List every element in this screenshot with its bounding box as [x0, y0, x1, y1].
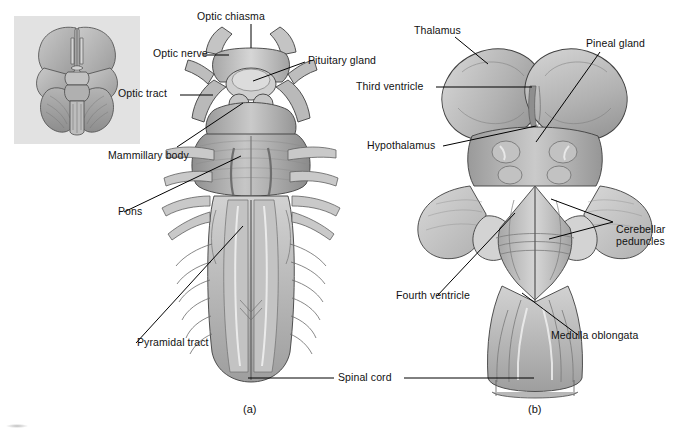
label-cerebellar-peduncles: Cerebellar peduncles	[616, 224, 678, 247]
label-pineal-gland: Pineal gland	[586, 38, 645, 50]
label-mammillary-body: Mammillary body	[108, 150, 189, 162]
label-optic-tract: Optic tract	[118, 88, 167, 100]
brain-stem-figure: Optic chiasma Optic nerve Optic tract Pi…	[0, 0, 678, 433]
label-fourth-ventricle: Fourth ventricle	[396, 290, 470, 302]
caption-panel-b: (b)	[528, 403, 541, 415]
label-hypothalamus: Hypothalamus	[367, 140, 435, 152]
panel-b-illustration	[418, 34, 652, 398]
label-medulla-oblongata: Medulla oblongata	[551, 330, 639, 342]
label-pons: Pons	[118, 206, 142, 218]
label-third-ventricle: Third ventricle	[356, 81, 423, 93]
caption-panel-a: (a)	[243, 403, 256, 415]
label-thalamus: Thalamus	[414, 25, 461, 37]
label-optic-chiasma: Optic chiasma	[197, 11, 265, 23]
panel-a-illustration	[162, 27, 340, 382]
label-optic-nerve: Optic nerve	[153, 48, 208, 60]
label-spinal-cord: Spinal cord	[338, 372, 392, 384]
label-pyramidal-tract: Pyramidal tract	[137, 337, 209, 349]
label-pituitary-gland: Pituitary gland	[308, 55, 376, 67]
